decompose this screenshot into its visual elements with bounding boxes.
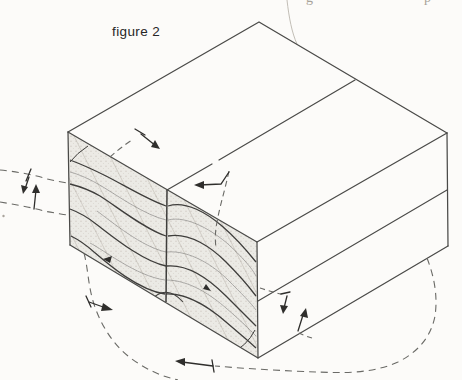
top-face-motion-arrow-left	[194, 172, 229, 189]
bottom-left-flow-arrow	[86, 296, 113, 311]
left-upper-dashed-line	[0, 170, 67, 183]
left-shear-arrow-up	[32, 184, 40, 209]
scan-speck	[2, 215, 4, 217]
lower-band-shear-arrow-down	[280, 292, 290, 314]
top-face-motion-arrow-downright	[135, 129, 160, 149]
bottom-center-flow-arrow	[175, 358, 214, 372]
shaded-cross-section-face	[4, 100, 352, 380]
lower-band-dashed-lower	[299, 333, 312, 338]
block-diagram	[0, 0, 462, 380]
top-face-dashed-arc-left	[110, 140, 132, 157]
face-hatching	[4, 100, 352, 380]
plate-boundary-trace-top	[167, 80, 355, 190]
leader-line-from-cropped-text	[287, 0, 297, 44]
scanned-figure-page: g p figure 2	[0, 0, 462, 380]
top-back-edges	[68, 22, 447, 133]
ridge-axis-line	[166, 190, 167, 302]
layer-boundary-line	[258, 190, 447, 301]
left-shear-arrow-down	[21, 169, 31, 194]
lower-band-shear-arrow-up	[298, 308, 308, 331]
